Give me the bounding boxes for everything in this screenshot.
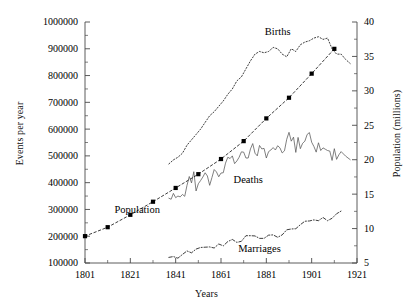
svg-text:30: 30 (364, 85, 374, 96)
axis-tick-labels: 1000002000003000004000005000006000007000… (43, 16, 374, 280)
svg-text:800000: 800000 (48, 70, 78, 81)
svg-text:1861: 1861 (211, 269, 231, 280)
svg-text:1801: 1801 (75, 269, 95, 280)
svg-text:1881: 1881 (256, 269, 276, 280)
x-axis-label: Years (0, 288, 413, 299)
svg-text:5: 5 (364, 257, 369, 268)
series-marker-population (83, 234, 87, 238)
series-marker-population (264, 116, 268, 120)
axes (85, 22, 357, 263)
svg-text:25: 25 (364, 120, 374, 131)
svg-text:200000: 200000 (48, 231, 78, 242)
axis-ticks (85, 22, 357, 263)
svg-text:500000: 500000 (48, 150, 78, 161)
svg-text:1901: 1901 (302, 269, 322, 280)
svg-text:1921: 1921 (347, 269, 367, 280)
svg-text:100000: 100000 (48, 257, 78, 268)
series-line-deaths (169, 132, 350, 199)
series-marker-population (106, 225, 110, 229)
svg-text:35: 35 (364, 51, 374, 62)
series-label-population: Population (114, 204, 160, 215)
series-marker-population (219, 157, 223, 161)
series-marker-population (174, 186, 178, 190)
series-label-births: Births (265, 26, 291, 37)
svg-text:15: 15 (364, 189, 374, 200)
data-series (83, 37, 350, 258)
svg-text:400000: 400000 (48, 177, 78, 188)
svg-text:1000000: 1000000 (43, 16, 78, 27)
y-axis-label-right: Population (millions) (391, 74, 402, 194)
series-labels: BirthsDeathsMarriagesPopulation (114, 26, 290, 254)
svg-text:1821: 1821 (120, 269, 140, 280)
series-label-marriages: Marriages (238, 243, 281, 254)
svg-text:900000: 900000 (48, 43, 78, 54)
y-axis-label-left: Events per year (14, 74, 25, 194)
svg-text:600000: 600000 (48, 124, 78, 135)
svg-text:20: 20 (364, 154, 374, 165)
svg-text:10: 10 (364, 223, 374, 234)
series-marker-population (310, 72, 314, 76)
series-marker-population (196, 172, 200, 176)
svg-text:300000: 300000 (48, 204, 78, 215)
demographics-chart: 1000002000003000004000005000006000007000… (0, 0, 413, 308)
chart-plot-area: 1000002000003000004000005000006000007000… (0, 0, 413, 308)
series-marker-population (332, 47, 336, 51)
series-line-births (169, 37, 350, 164)
svg-text:1841: 1841 (166, 269, 186, 280)
series-marker-population (242, 139, 246, 143)
series-label-deaths: Deaths (234, 174, 263, 185)
series-marker-population (287, 96, 291, 100)
svg-text:700000: 700000 (48, 97, 78, 108)
svg-text:40: 40 (364, 16, 374, 27)
